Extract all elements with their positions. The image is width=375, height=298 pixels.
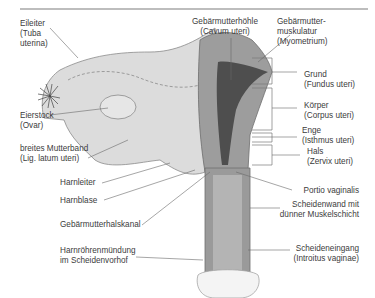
label-zervix: Hals (Zervix uteri) [307, 147, 353, 167]
label-harnleiter: Harnleiter [60, 178, 96, 188]
label-eileiter: Eileiter (Tuba uterina) [20, 19, 48, 49]
label-harnblase: Harnblase [60, 196, 97, 206]
label-eierstock: Eierstock (Ovar) [20, 111, 54, 131]
label-portio: Portio vaginalis [303, 186, 359, 196]
label-cavum-uteri: Gebärmutterhöhle (Cavum uteri) [192, 17, 258, 37]
ovary-shape [100, 95, 136, 119]
label-fundus: Grund (Fundus uteri) [304, 70, 355, 90]
vagina-inner [213, 175, 242, 272]
label-isthmus: Enge (Isthmus uteri) [302, 126, 354, 146]
label-myometrium: Gebärmutter- muskulatur (Myometrium) [277, 17, 328, 47]
label-harnroehre: Harnröhrenmündung im Scheidenvorhof [60, 246, 136, 266]
label-lig-latum: breites Mutterband (Lig. latum uteri) [20, 144, 88, 164]
label-scheideneingang: Scheideneingang (Introitus vaginae) [293, 244, 359, 264]
label-corpus: Körper (Corpus uteri) [304, 101, 354, 121]
label-halskanal: Gebärmutterhalskanal [60, 220, 141, 230]
vestibule-shape [197, 270, 259, 298]
label-scheidenwand: Scheidenwand mit dünner Muskelschicht [280, 200, 359, 220]
